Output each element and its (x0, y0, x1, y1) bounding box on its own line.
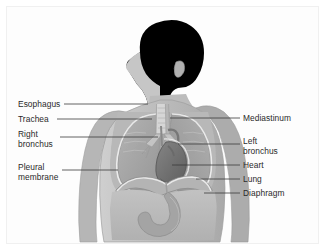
label-left-bronchus-line-2: bronchus (243, 146, 278, 156)
label-pleural-membrane-line-1: Pleural (18, 162, 58, 172)
anatomy-figure: EsophagusTracheaRightbronchusPleuralmemb… (0, 0, 327, 251)
label-trachea-line-1: Trachea (18, 114, 49, 124)
label-left-bronchus-line-1: Left (243, 136, 278, 146)
label-mediastinum: Mediastinum (243, 113, 291, 123)
label-heart-line-1: Heart (243, 160, 264, 170)
label-esophagus: Esophagus (18, 99, 60, 109)
label-heart: Heart (243, 160, 264, 170)
label-pleural-membrane: Pleuralmembrane (18, 162, 58, 183)
esophagus-abdominal (166, 182, 167, 193)
label-diaphragm-line-1: Diaphragm (243, 188, 284, 198)
label-esophagus-line-1: Esophagus (18, 99, 60, 109)
label-right-bronchus-line-1: Right (18, 129, 53, 139)
label-left-bronchus: Leftbronchus (243, 136, 278, 157)
label-mediastinum-line-1: Mediastinum (243, 113, 291, 123)
label-pleural-membrane-line-2: membrane (18, 172, 58, 182)
label-right-bronchus-line-2: bronchus (18, 139, 53, 149)
anatomy-illustration (0, 0, 327, 251)
label-diaphragm: Diaphragm (243, 188, 284, 198)
superior-vena-cava (161, 126, 162, 146)
label-right-bronchus: Rightbronchus (18, 129, 53, 150)
label-lung-line-1: Lung (243, 174, 262, 184)
label-lung: Lung (243, 174, 262, 184)
label-trachea: Trachea (18, 114, 49, 124)
